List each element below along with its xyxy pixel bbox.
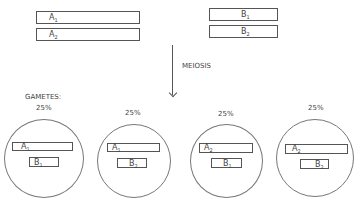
chromosome-a2: A2 <box>36 28 140 41</box>
gamete-chromosome-a: A2 <box>285 144 348 154</box>
gamete-chromosome-a: A1 <box>107 143 160 152</box>
gamete-chromosome-a: A2 <box>199 143 253 153</box>
gamete-cell <box>276 119 354 197</box>
gametes-title: GAMETES: <box>25 93 61 101</box>
gamete-chromosome-b: B1 <box>29 157 59 167</box>
allele-label: A2 <box>49 31 58 40</box>
gamete-percent: 25% <box>218 110 234 118</box>
allele-label: B2 <box>241 28 250 37</box>
chromosome-b2: B2 <box>209 25 278 38</box>
chromosome-a1: A1 <box>36 11 140 24</box>
chromosome-b1: B1 <box>209 8 278 21</box>
gamete-percent: 25% <box>125 109 141 117</box>
gamete-percent: 25% <box>36 104 52 112</box>
gamete-chromosome-b: B2 <box>300 159 329 169</box>
allele-label: A1 <box>49 14 58 23</box>
gamete-chromosome-b: B2 <box>117 158 147 168</box>
meiosis-label: MEIOSIS <box>182 62 211 70</box>
gamete-chromosome-a: A1 <box>12 142 73 151</box>
allele-label: B1 <box>241 11 250 20</box>
gamete-chromosome-b: B1 <box>211 158 242 168</box>
gamete-percent: 25% <box>308 104 324 112</box>
